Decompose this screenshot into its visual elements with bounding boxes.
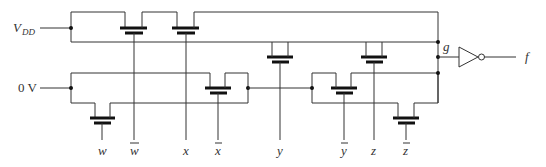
input-w-label: w — [98, 143, 107, 158]
svg-text:0 V: 0 V — [18, 80, 38, 95]
input-x-label: x — [182, 143, 189, 158]
transistor-w-bar — [120, 12, 177, 140]
ground-label: 0 V — [18, 80, 38, 95]
transistor-z — [361, 42, 387, 140]
input-y-label: y — [275, 143, 283, 158]
transistor-w — [90, 88, 248, 140]
transistor-x-bar — [205, 73, 248, 140]
circuit-diagram: V DD 0 V — [0, 0, 546, 167]
input-x-bar-label: x — [214, 143, 221, 158]
input-w-bar-label: w — [130, 143, 139, 158]
input-z-label: z — [370, 143, 376, 158]
vdd-label: V DD — [13, 20, 35, 37]
output-column: g — [436, 39, 459, 103]
inverter-gate: f — [459, 47, 531, 67]
input-z-bar-label: z — [402, 143, 408, 158]
input-labels: w w x x y y z z — [98, 143, 410, 158]
output-f-label: f — [525, 49, 531, 64]
transistor-y — [267, 42, 293, 140]
svg-text:DD: DD — [21, 27, 35, 37]
vdd-net — [40, 12, 438, 42]
ground-net — [40, 73, 210, 118]
input-y-bar-label: y — [339, 143, 347, 158]
transistor-x — [172, 12, 438, 140]
node-g-label: g — [443, 39, 450, 54]
transistor-y-bar — [312, 73, 438, 140]
transistor-z-bar — [312, 73, 438, 140]
